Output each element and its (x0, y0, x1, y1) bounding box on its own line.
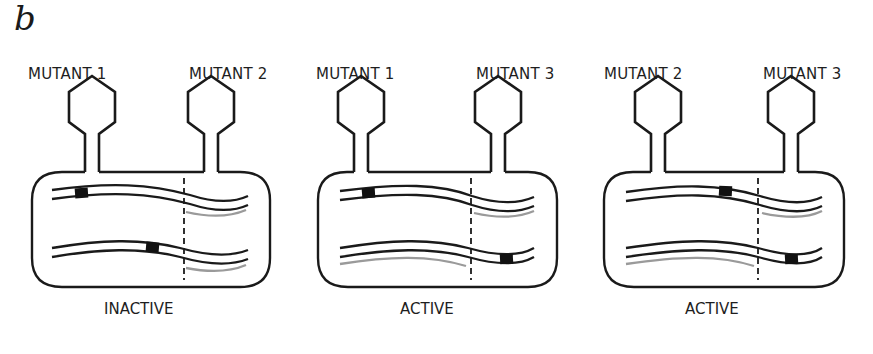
mutation-block (75, 188, 89, 199)
phage-icon (768, 76, 814, 172)
phage-icon (475, 76, 521, 172)
mutation-block (146, 241, 160, 252)
phage-icon (69, 76, 115, 172)
mutation-block (500, 254, 514, 265)
mutation-block (362, 188, 376, 199)
panel-2 (318, 76, 557, 287)
panel-3 (604, 76, 844, 287)
mutation-block (785, 254, 799, 265)
phage-icon (338, 76, 384, 172)
mutation-block (719, 186, 733, 197)
phage-icon (635, 76, 681, 172)
complementation-diagram (0, 0, 873, 354)
panel-1 (32, 76, 270, 287)
phage-icon (188, 76, 234, 172)
